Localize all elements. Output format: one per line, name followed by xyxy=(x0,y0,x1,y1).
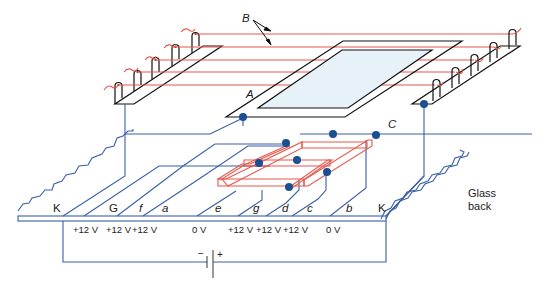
electrode-label-c: c xyxy=(307,202,313,214)
left-filament-support xyxy=(104,29,222,104)
voltage-label-e: 0 V xyxy=(192,224,207,235)
electrode-label-K-right: K xyxy=(378,202,386,214)
electrode-label-G: G xyxy=(109,202,118,214)
connection-wires xyxy=(63,104,532,262)
label-B: B xyxy=(242,12,250,24)
voltage-label-a: +12 V xyxy=(132,224,158,235)
baseplate xyxy=(18,216,386,221)
label-glass-back-2: back xyxy=(468,200,492,212)
electrode-label-b: b xyxy=(346,202,353,214)
label-glass-back-1: Glass xyxy=(468,187,497,199)
voltage-label-f: +12 V xyxy=(106,224,132,235)
electrode-label-e: e xyxy=(215,202,221,214)
voltage-label-g: +12 V xyxy=(228,224,254,235)
voltage-label-b: 0 V xyxy=(326,224,341,235)
electrode-label-K-left: K xyxy=(53,202,61,214)
electrode-label-g: g xyxy=(253,202,260,214)
label-B-arrows xyxy=(253,20,271,45)
anode-segments xyxy=(218,140,372,188)
vacuum-fluorescent-display-diagram: B A C Glass back K G f a e g d c b K +12… xyxy=(0,0,547,290)
battery-minus-label: − xyxy=(198,248,204,259)
battery-plus-label: + xyxy=(217,249,223,260)
voltage-label-d: +12 V xyxy=(256,224,282,235)
electrode-label-d: d xyxy=(282,202,289,214)
electrode-label-a: a xyxy=(162,202,168,214)
right-filament-support xyxy=(412,28,521,104)
electrode-label-f: f xyxy=(139,202,144,214)
label-C: C xyxy=(388,118,397,130)
glass-back-right-edge xyxy=(381,150,469,219)
voltage-label-G: +12 V xyxy=(73,224,99,235)
label-A: A xyxy=(245,88,254,100)
glass-back-left-edge xyxy=(18,129,133,211)
voltage-label-c: +12 V xyxy=(283,224,309,235)
